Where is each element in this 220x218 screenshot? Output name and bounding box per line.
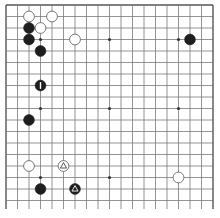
number-mark (40, 82, 41, 89)
stone-body (173, 172, 184, 183)
stone-body (24, 115, 35, 126)
star-point (108, 176, 111, 179)
go-board (0, 0, 220, 209)
star-point (108, 107, 111, 110)
stone-body (35, 23, 46, 34)
stone-body (24, 23, 35, 34)
stone-body (35, 184, 46, 195)
black-stone[interactable] (24, 34, 35, 45)
stone-body (24, 161, 35, 172)
star-point (108, 38, 111, 41)
white-stone[interactable] (70, 34, 81, 45)
star-point (39, 38, 42, 41)
white-stone[interactable] (24, 11, 35, 22)
black-stone[interactable] (185, 34, 196, 45)
black-stone[interactable] (35, 80, 46, 91)
star-point (39, 107, 42, 110)
star-point (177, 107, 180, 110)
black-stone[interactable] (24, 115, 35, 126)
black-stone[interactable] (24, 23, 35, 34)
star-point (39, 176, 42, 179)
white-stone[interactable] (24, 161, 35, 172)
black-stone[interactable] (70, 184, 81, 195)
black-stone[interactable] (35, 184, 46, 195)
white-stone[interactable] (47, 11, 58, 22)
white-stone[interactable] (58, 161, 69, 172)
stone-body (47, 11, 58, 22)
stone-body (70, 34, 81, 45)
stone-body (24, 11, 35, 22)
stone-body (185, 34, 196, 45)
stone-body (24, 34, 35, 45)
star-point (177, 38, 180, 41)
black-stone[interactable] (35, 46, 46, 57)
white-stone[interactable] (173, 172, 184, 183)
stone-body (35, 46, 46, 57)
white-stone[interactable] (35, 23, 46, 34)
